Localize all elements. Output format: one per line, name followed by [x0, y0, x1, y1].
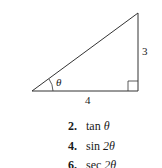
exercise-arg: 2θ [103, 139, 115, 153]
exercise-item: 2. tan θ [68, 117, 116, 137]
triangle-outline [32, 13, 138, 91]
exercise-list: 2. tan θ 4. sin 2θ 6. sec 2θ [68, 117, 116, 168]
angle-arc [49, 79, 53, 91]
exercise-number: 2. [68, 117, 83, 137]
exercise-item: 4. sin 2θ [68, 137, 116, 157]
exercise-func: tan [86, 119, 101, 133]
exercise-func: sec [86, 158, 101, 168]
exercise-item: 6. sec 2θ [68, 156, 116, 168]
exercise-number: 6. [68, 156, 83, 168]
angle-label-theta: θ [56, 77, 61, 88]
exercise-func: sin [86, 139, 100, 153]
side-label-adjacent: 4 [85, 95, 91, 106]
exercise-arg: θ [104, 119, 110, 133]
exercise-arg: 2θ [104, 158, 116, 168]
exercise-number: 4. [68, 137, 83, 157]
side-label-opposite: 3 [142, 46, 148, 57]
right-angle-marker [128, 81, 138, 91]
